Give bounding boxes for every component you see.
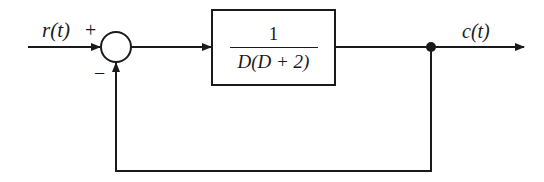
transfer-function-denominator: D(D + 2) [238, 48, 310, 71]
input-label: r(t) [42, 20, 70, 41]
plus-sign: + [85, 20, 96, 40]
transfer-function-numerator: 1 [269, 24, 279, 47]
output-label: c(t) [462, 21, 490, 41]
minus-sign: − [94, 63, 105, 83]
transfer-function: 1 D(D + 2) [212, 10, 335, 85]
summing-junction [101, 32, 131, 62]
